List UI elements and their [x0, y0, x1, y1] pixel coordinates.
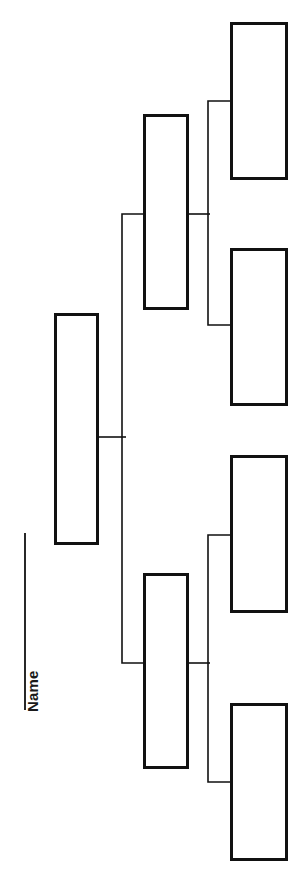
connector-qf-bottom: [208, 535, 231, 782]
connector-final-spine: [122, 214, 145, 663]
name-label: Name: [2, 712, 48, 772]
bracket-slot-quarterfinal-1[interactable]: [232, 24, 287, 179]
bracket-slot-semifinal-top[interactable]: [145, 116, 188, 309]
name-label-text: Name: [25, 670, 40, 712]
bracket-page: Name: [0, 0, 299, 888]
semifinal-boxes: [145, 116, 188, 768]
connector-qf-top: [208, 101, 231, 325]
bracket-slot-quarterfinal-3[interactable]: [232, 457, 287, 612]
final-box: [56, 315, 98, 544]
bracket-slot-champion[interactable]: [56, 315, 98, 544]
bracket-slot-semifinal-bottom[interactable]: [145, 575, 188, 768]
quarterfinal-boxes: [232, 24, 287, 860]
bracket-slot-quarterfinal-2[interactable]: [232, 250, 287, 405]
bracket-slot-quarterfinal-4[interactable]: [232, 705, 287, 860]
